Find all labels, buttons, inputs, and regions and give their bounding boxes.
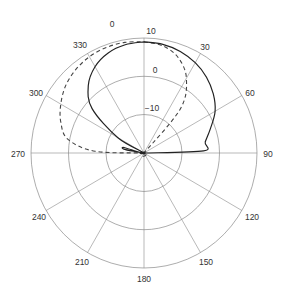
angle-label-270: 270 (11, 149, 25, 159)
spoke-330 (88, 53, 145, 153)
angle-label-150: 150 (199, 257, 213, 267)
spoke-300 (46, 96, 144, 154)
angle-label-300: 300 (29, 88, 43, 98)
angle-label-90: 90 (263, 149, 273, 159)
polar-chart: 0 30 60 90 120 150 180 210 240 270 300 3… (0, 0, 285, 295)
angle-label-210: 210 (75, 257, 89, 267)
angle-label-120: 120 (245, 212, 259, 222)
radial-label-0: 0 (153, 65, 158, 75)
radial-label-10: 10 (146, 26, 156, 36)
spoke-210 (88, 153, 145, 253)
angle-label-0: 0 (110, 19, 115, 29)
center-dot (142, 151, 145, 154)
radial-label-minus10: −10 (145, 103, 160, 113)
spoke-120 (144, 153, 242, 211)
spoke-240 (46, 153, 144, 211)
spoke-150 (144, 153, 201, 253)
angle-label-330: 330 (73, 40, 87, 50)
angle-label-30: 30 (200, 42, 210, 52)
angle-label-60: 60 (245, 88, 255, 98)
angle-label-180: 180 (137, 274, 151, 284)
angle-label-240: 240 (32, 212, 46, 222)
